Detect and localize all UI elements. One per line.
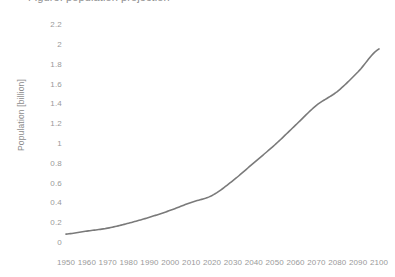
population-data-line (66, 49, 379, 234)
population-projection-line-chart: Figure: population projection Population… (0, 0, 395, 277)
plot-area (0, 0, 395, 277)
